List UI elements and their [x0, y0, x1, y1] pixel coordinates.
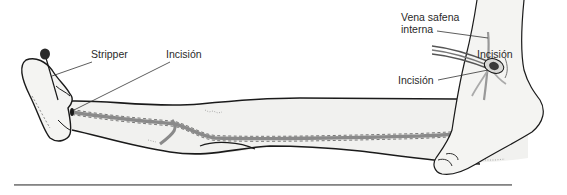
label-stripper: Stripper [91, 48, 128, 60]
illustration [0, 0, 567, 195]
label-vena-safena-interna: Vena safena interna [401, 11, 459, 35]
label-incision-detail: Incisión [398, 74, 434, 86]
vein-stripping-figure: Stripper Incisión Incisión Vena safena i… [0, 0, 567, 195]
label-incision-ankle: Incisión [166, 48, 202, 60]
label-incision-groin: Incisión [477, 48, 513, 60]
figure-divider-rule [14, 184, 512, 186]
